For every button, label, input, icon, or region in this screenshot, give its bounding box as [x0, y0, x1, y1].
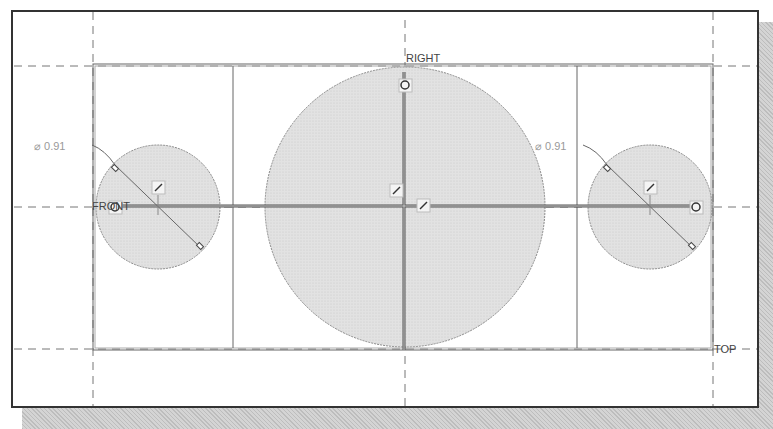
sketch-canvas[interactable]: RIGHT FRONT TOP ⌀ 0.91 ⌀ 0.91	[0, 0, 773, 429]
dimension-left-diameter[interactable]: ⌀ 0.91	[34, 140, 65, 152]
coincident-point-icon[interactable]	[399, 79, 412, 92]
tangent-constraint-icon[interactable]	[417, 199, 430, 212]
datum-label-right[interactable]: RIGHT	[406, 52, 441, 64]
tangent-constraint-icon[interactable]	[390, 184, 403, 197]
datum-label-front[interactable]: FRONT	[92, 200, 130, 212]
dimension-right-diameter[interactable]: ⌀ 0.91	[535, 140, 566, 152]
datum-label-top[interactable]: TOP	[714, 343, 736, 355]
coincident-point-icon[interactable]	[690, 201, 703, 214]
